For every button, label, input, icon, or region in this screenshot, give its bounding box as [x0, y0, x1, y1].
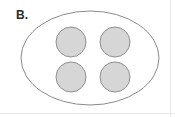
diagram-canvas	[0, 0, 175, 117]
circle-bottom-right	[100, 62, 130, 92]
circle-top-right	[100, 27, 130, 57]
circle-top-left	[56, 27, 86, 57]
figure-panel: B.	[0, 0, 175, 117]
right-edge-rule	[170, 0, 171, 117]
bottom-edge-rule	[0, 113, 175, 114]
ellipse-outline	[21, 11, 159, 105]
circle-bottom-left	[56, 62, 86, 92]
